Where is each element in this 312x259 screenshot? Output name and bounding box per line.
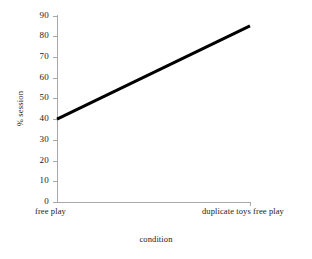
data-series-layer (0, 0, 312, 259)
chart-figure: 0102030405060708090 % session free play … (0, 0, 312, 259)
line-series-percent-session (57, 26, 250, 119)
